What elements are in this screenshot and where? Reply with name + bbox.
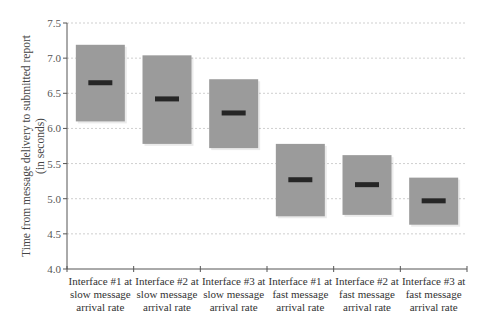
x-category-label: slow message [203,288,264,300]
x-category-label: Interface #2 at [135,275,199,287]
x-category-label: slow message [137,288,198,300]
x-category-label: Interface #2 at [335,275,399,287]
x-category-label: arrival rate [410,301,458,313]
x-ticks: Interface #1 atslow messagearrival rateI… [67,266,467,313]
boxes [76,45,460,227]
x-category-label: Interface #3 at [402,275,466,287]
box-5 [343,155,394,217]
median-bar [155,96,179,101]
y-tick-label: 4.0 [47,263,61,275]
median-bar [222,110,246,115]
box-3 [209,79,260,150]
box-chart: 4.04.55.05.56.06.57.07.5 Interface #1 at… [0,0,485,328]
x-category-label: fast message [272,288,328,300]
box-2 [143,55,194,146]
x-category-label: Interface #1 at [69,275,133,287]
x-category-label: fast message [339,288,395,300]
box-6 [409,178,460,227]
y-axis-label-line-1: Time from message delivery to submitted … [20,34,33,257]
y-axis-label: Time from message delivery to submitted … [20,34,47,257]
x-category-label: arrival rate [76,301,124,313]
x-category-label: arrival rate [343,301,391,313]
y-tick-label: 6.0 [47,122,61,134]
gridlines [67,23,467,234]
median-bar [355,182,379,187]
y-tick-label: 5.0 [47,193,61,205]
median-bar [88,80,112,85]
y-tick-label: 4.5 [47,228,61,240]
y-ticks: 4.04.55.05.56.06.57.07.5 [47,17,67,275]
x-category-label: fast message [406,288,462,300]
median-bar [288,177,312,182]
x-category-label: slow message [70,288,131,300]
x-category-label: Interface #3 at [202,275,266,287]
axes [67,23,467,269]
y-tick-label: 7.5 [47,17,61,29]
y-axis-label-line-2: (in seconds) [34,118,47,174]
y-tick-label: 5.5 [47,158,61,170]
y-tick-label: 6.5 [47,87,61,99]
box-4 [276,144,327,218]
x-category-label: arrival rate [143,301,191,313]
y-tick-label: 7.0 [47,52,61,64]
box-1 [76,45,127,124]
x-category-label: arrival rate [210,301,258,313]
x-category-label: arrival rate [276,301,324,313]
median-bar [422,198,446,203]
x-category-label: Interface #1 at [269,275,333,287]
